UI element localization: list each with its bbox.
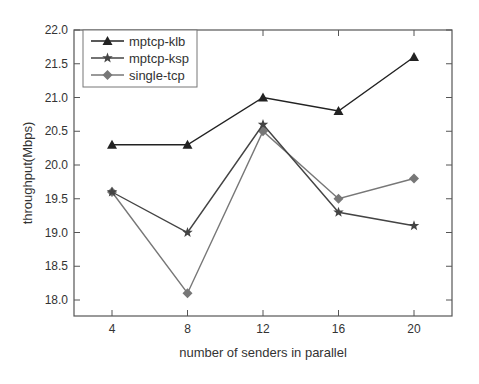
x-tick-label: 4 (109, 322, 116, 336)
line-chart: 18.018.519.019.520.020.521.021.522.0 481… (0, 0, 479, 384)
y-tick-label: 18.5 (45, 259, 69, 273)
y-tick-label: 21.0 (45, 91, 69, 105)
series-layer (107, 52, 419, 298)
star-marker-icon (409, 220, 419, 230)
diamond-marker-icon (409, 174, 419, 184)
legend-label: mptcp-klb (129, 34, 185, 49)
x-tick-label: 8 (184, 322, 191, 336)
y-tick-label: 22.0 (45, 23, 69, 37)
y-tick-label: 20.5 (45, 124, 69, 138)
series-line (112, 131, 414, 293)
legend-label: single-tcp (129, 68, 185, 83)
series-mptcp-ksp (107, 119, 419, 237)
y-axis-label: throughput(Mbps) (20, 122, 35, 225)
y-tick-label: 21.5 (45, 57, 69, 71)
y-tick-label: 19.5 (45, 192, 69, 206)
y-tick-label: 19.0 (45, 226, 69, 240)
legend-label: mptcp-ksp (129, 51, 189, 66)
x-tick-label: 16 (332, 322, 346, 336)
star-marker-icon (182, 227, 192, 237)
triangle-marker-icon (409, 52, 419, 61)
diamond-marker-icon (183, 288, 193, 298)
series-line (112, 125, 414, 233)
y-tick-label: 18.0 (45, 293, 69, 307)
series-single-tcp (107, 126, 419, 298)
y-tick-label: 20.0 (45, 158, 69, 172)
x-tick-label: 12 (256, 322, 270, 336)
x-tick-label: 20 (407, 322, 421, 336)
triangle-marker-icon (258, 93, 268, 102)
legend: mptcp-klbmptcp-kspsingle-tcp (83, 30, 197, 87)
x-axis-label: number of senders in parallel (179, 345, 347, 360)
